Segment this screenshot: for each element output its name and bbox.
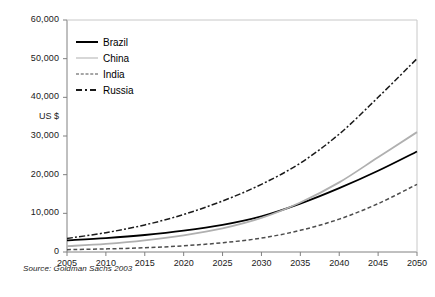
x-tick-label: 2030 [241,258,281,268]
x-tick-label: 2045 [358,258,398,268]
y-tick-label: 30,000 [13,130,59,140]
x-tick-marks [67,252,417,256]
legend-line-india-icon [76,69,98,79]
y-tick-label: 40,000 [13,91,59,101]
series-line-china [67,132,417,246]
legend-line-russia-icon [76,85,98,95]
chart-legend: Brazil China India Russia [76,34,168,98]
legend-label-russia: Russia [103,85,134,96]
x-tick-label: 2020 [164,258,204,268]
source-note: Source: Goldman Sachs 2003 [23,264,132,273]
y-tick-label: 20,000 [13,169,59,179]
y-tick-label: 60,000 [13,14,59,24]
legend-item-brazil: Brazil [76,34,168,50]
x-tick-label: 2035 [280,258,320,268]
legend-label-india: India [103,69,125,80]
legend-line-brazil-icon [76,37,98,47]
series-line-india [67,184,417,249]
y-tick-label: 10,000 [13,207,59,217]
y-axis-title: US $ [13,111,59,121]
legend-item-russia: Russia [76,82,168,98]
y-tick-label: 50,000 [13,53,59,63]
legend-item-china: China [76,50,168,66]
legend-item-india: India [76,66,168,82]
series-line-brazil [67,151,417,240]
legend-label-brazil: Brazil [103,37,128,48]
legend-line-china-icon [76,53,98,63]
x-tick-label: 2050 [397,258,435,268]
chart-container: 010,00020,00030,00040,00050,00060,000 20… [0,0,435,297]
x-tick-label: 2040 [319,258,359,268]
legend-label-china: China [103,53,129,64]
x-tick-label: 2025 [203,258,243,268]
chart-canvas [0,0,435,297]
y-tick-marks [63,20,67,252]
y-tick-label: 0 [13,246,59,256]
